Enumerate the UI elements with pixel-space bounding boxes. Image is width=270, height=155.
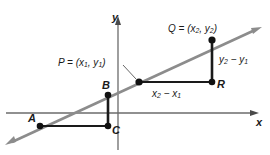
- triangle-pqr-legs: [139, 40, 212, 82]
- slope-diagram-figure: y x A B C R P = (x1, y1) Q = (x2, y2) x2…: [0, 0, 270, 155]
- point-a-marker: [37, 123, 44, 130]
- diagram-canvas: [0, 0, 270, 155]
- q-prefix: Q = (x: [168, 23, 196, 34]
- x-axis: [6, 110, 259, 116]
- x-axis-label: x: [256, 117, 262, 128]
- point-c-marker: [105, 123, 112, 130]
- delta-y-label: y2 − y1: [219, 55, 248, 66]
- delta-x-minus: − x: [161, 88, 177, 99]
- delta-x-label: x2 − x1: [152, 89, 181, 100]
- delta-y-minus: − y: [228, 54, 244, 65]
- p-prefix: P = (x: [58, 57, 84, 68]
- delta-y-sub-b: 1: [244, 58, 248, 65]
- q-mid: , y: [199, 23, 210, 34]
- point-r-marker: [209, 79, 216, 86]
- point-c-label: C: [112, 125, 120, 136]
- q-suffix: ): [214, 23, 217, 34]
- p-mid: , y: [88, 57, 99, 68]
- line-arrow-left-icon: [5, 136, 16, 145]
- point-r-label: R: [217, 79, 225, 90]
- point-p-coordinate-label: P = (x1, y1): [58, 58, 106, 69]
- point-p-marker: [135, 78, 142, 85]
- point-q-coordinate-label: Q = (x2, y2): [168, 24, 217, 35]
- p-label-leader-line: [123, 65, 136, 79]
- point-b-marker: [105, 92, 112, 99]
- point-q-marker: [208, 36, 215, 43]
- delta-x-sub-b: 1: [177, 92, 181, 99]
- triangle-abc-legs: [40, 95, 108, 126]
- point-b-label: B: [102, 80, 110, 91]
- line-arrow-right-icon: [251, 27, 262, 34]
- p-suffix: ): [102, 57, 105, 68]
- y-axis-label: y: [112, 12, 118, 23]
- point-a-label: A: [28, 113, 36, 124]
